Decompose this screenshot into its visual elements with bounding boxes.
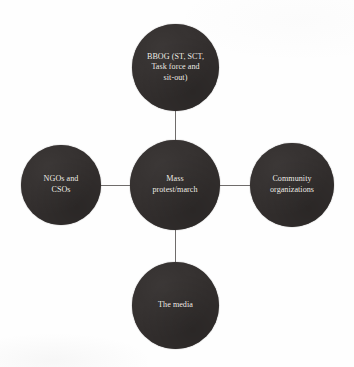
node-the-media-label: The media <box>153 300 198 311</box>
node-mass-protest-march-label: Mass protest/march <box>147 174 202 195</box>
node-bbog: BBOG (ST, SCT, Task force and sit-out) <box>132 24 219 111</box>
node-mass-protest-march: Mass protest/march <box>130 140 220 230</box>
connector-center-to-community <box>219 185 251 186</box>
node-community-organizations: Community organizations <box>250 143 334 227</box>
node-community-organizations-label: Community organizations <box>265 174 319 195</box>
node-bbog-label: BBOG (ST, SCT, Task force and sit-out) <box>142 52 209 84</box>
node-ngos-and-csos-label: NGOs and CSOs <box>39 174 84 195</box>
connector-ngos-to-center <box>100 185 131 186</box>
node-ngos-and-csos: NGOs and CSOs <box>21 145 101 225</box>
connector-bbog-to-center <box>175 110 176 141</box>
node-the-media: The media <box>132 262 219 349</box>
diagram-canvas: BBOG (ST, SCT, Task force and sit-out) N… <box>0 0 354 367</box>
connector-center-to-media <box>175 229 176 263</box>
